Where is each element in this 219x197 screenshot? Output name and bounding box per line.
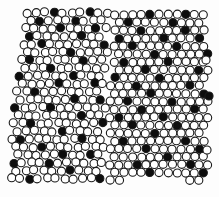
raft-canvas: [0, 0, 219, 197]
bubble-raft-figure: [0, 0, 219, 197]
